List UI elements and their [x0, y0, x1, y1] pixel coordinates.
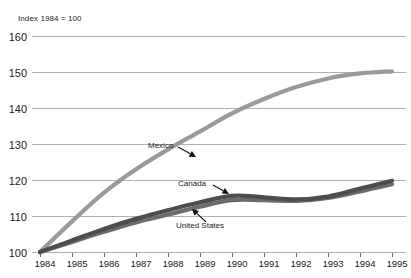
annotation-label-canada: Canada	[178, 179, 207, 188]
x-tick-label: 1985	[66, 258, 87, 269]
x-tickmarks-group	[41, 253, 393, 257]
y-tick-label: 140	[9, 103, 27, 115]
x-tick-label: 1993	[322, 258, 343, 269]
y-tick-label: 160	[9, 31, 27, 43]
y-tick-label: 120	[9, 175, 27, 187]
x-tick-label: 1984	[34, 258, 55, 269]
chart-container: Index 1984 = 100 100110120130140150160 1…	[0, 0, 411, 278]
x-tick-label: 1995	[386, 258, 407, 269]
line-chart-plot: 100110120130140150160 198419851986198719…	[0, 0, 411, 278]
x-tick-label: 1988	[162, 258, 183, 269]
x-tick-label: 1989	[194, 258, 215, 269]
y-tick-label: 130	[9, 139, 27, 151]
x-tick-label: 1991	[258, 258, 279, 269]
x-tick-label: 1992	[290, 258, 311, 269]
x-tick-label: 1987	[130, 258, 151, 269]
annotation-label-mexico: Mexico	[148, 141, 174, 150]
annotation-arrow-shaft	[213, 185, 223, 191]
x-tick-label: 1990	[226, 258, 247, 269]
y-axis-tick-labels: 100110120130140150160	[9, 31, 27, 259]
y-tick-label: 100	[9, 247, 27, 259]
y-tick-label: 110	[9, 211, 27, 223]
y-tick-label: 150	[9, 67, 27, 79]
x-axis-tick-labels: 1984198519861987198819891990199119921993…	[34, 258, 407, 269]
x-tick-label: 1986	[98, 258, 119, 269]
x-tick-label: 1994	[354, 258, 375, 269]
annotation-arrow-shaft	[178, 147, 190, 154]
annotation-label-united-states: United States	[176, 221, 224, 230]
